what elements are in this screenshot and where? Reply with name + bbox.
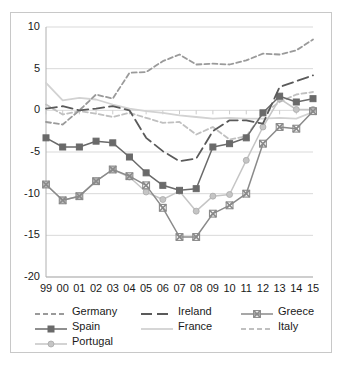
y-tick-label: -15 (14, 229, 40, 240)
legend-item-italy[interactable]: Italy (238, 321, 328, 333)
legend-item-france[interactable]: France (134, 321, 238, 333)
y-tick-label: 10 (14, 21, 40, 32)
legend-label: Italy (274, 321, 298, 332)
legend-row: GermanyIrelandGreece (22, 304, 328, 319)
legend-label: Germany (68, 306, 117, 317)
legend-item-greece[interactable]: Greece (238, 306, 328, 318)
legend-row: Portugal (22, 334, 328, 349)
legend-label: Portugal (68, 336, 113, 347)
legend-item-portugal[interactable]: Portugal (22, 336, 134, 348)
legend-swatch-greece (240, 306, 274, 318)
chart-legend: GermanyIrelandGreeceSpainFranceItalyPort… (22, 304, 328, 349)
legend-label: Spain (68, 321, 100, 332)
legend-label: France (174, 321, 212, 332)
y-tick-label: 5 (14, 63, 40, 74)
legend-swatch-germany (34, 306, 68, 318)
legend-item-spain[interactable]: Spain (22, 321, 134, 333)
legend-swatch-italy (240, 321, 274, 333)
legend-swatch-ireland (140, 306, 174, 318)
legend-item-ireland[interactable]: Ireland (134, 306, 238, 318)
legend-row: SpainFranceItaly (22, 319, 328, 334)
x-tick-label: 15 (303, 283, 323, 294)
y-tick-label: 0 (14, 104, 40, 115)
legend-swatch-france (140, 321, 174, 333)
legend-label: Greece (274, 306, 314, 317)
y-tick-label: -5 (14, 146, 40, 157)
chart-container: 1050-5-10-15-20 990001020304050607080910… (0, 0, 347, 366)
legend-swatch-portugal (34, 336, 68, 348)
y-tick-label: -10 (14, 188, 40, 199)
legend-label: Ireland (174, 306, 212, 317)
legend-item-germany[interactable]: Germany (22, 306, 134, 318)
y-tick-label: -20 (14, 271, 40, 282)
legend-swatch-spain (34, 321, 68, 333)
